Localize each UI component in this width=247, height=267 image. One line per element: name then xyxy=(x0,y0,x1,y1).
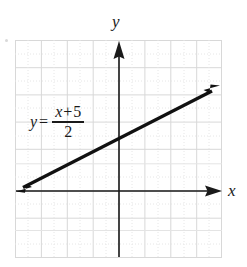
equation-fraction: x+5 2 xyxy=(52,104,84,140)
graph-figure: y x y = x+5 2 xyxy=(0,0,247,267)
fraction-numerator: x+5 xyxy=(52,104,84,121)
fraction-denominator: 2 xyxy=(61,123,75,140)
numerator-constant: 5 xyxy=(73,103,81,120)
scan-artifact-speck xyxy=(5,39,8,42)
y-axis-label: y xyxy=(112,13,120,30)
equation-lhs: y xyxy=(30,114,37,130)
equation-annotation: y = x+5 2 xyxy=(30,104,84,140)
numerator-operator: + xyxy=(62,103,73,120)
x-axis-label: x xyxy=(228,182,236,199)
equation-relation: = xyxy=(39,114,48,130)
